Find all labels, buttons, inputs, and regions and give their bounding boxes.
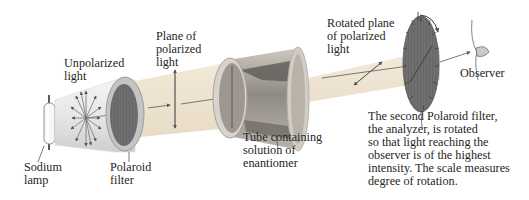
label-line: light — [64, 70, 124, 83]
label-line: degree of rotation. — [368, 175, 510, 188]
label-rotated-plane: Rotated plane of polarized light — [327, 17, 394, 56]
label-line: filter — [110, 174, 151, 187]
label-sodium-lamp: Sodium lamp — [24, 161, 62, 187]
label-observer: Observer — [460, 67, 505, 80]
label-analyzer-caption: The second Polaroid filter, the analyzer… — [368, 110, 510, 188]
output-ray — [440, 52, 470, 62]
label-line: lamp — [24, 174, 62, 187]
label-line: light — [327, 43, 394, 56]
label-polaroid-filter: Polaroid filter — [110, 161, 151, 187]
sodium-lamp — [44, 95, 55, 150]
label-line: enantiomer — [243, 157, 322, 170]
label-line: Observer — [460, 67, 505, 80]
polaroid-filter — [106, 77, 144, 151]
label-tube: Tube containing solution of enantiomer — [243, 131, 322, 170]
label-plane-of-polarized-light: Plane of polarized light — [156, 30, 201, 69]
label-line: light — [156, 56, 201, 69]
label-unpolarized-light: Unpolarized light — [64, 57, 124, 83]
analyzer-disc — [403, 12, 439, 112]
